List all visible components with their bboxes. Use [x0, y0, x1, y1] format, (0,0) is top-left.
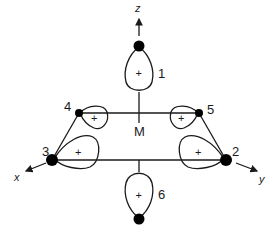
lobe-5-sign: + [178, 112, 184, 124]
diagram-canvas: z x y + 1 + 6 + 4 [0, 0, 280, 236]
ligand-6-label: 6 [158, 187, 165, 202]
x-axis: x [13, 163, 46, 183]
ligand-5: + 5 [170, 102, 214, 129]
atom-5 [195, 109, 203, 117]
lobe-1-sign: + [136, 67, 142, 79]
lobe-6-sign: + [136, 189, 142, 201]
metal-center-label: M [134, 124, 145, 139]
x-axis-label: x [13, 171, 20, 183]
ligand-4-label: 4 [64, 99, 71, 114]
atom-4 [75, 109, 83, 117]
atom-2 [220, 154, 232, 166]
ligand-1-label: 1 [158, 66, 165, 81]
ligand-6: + 6 [125, 173, 165, 224]
ligand-4: + 4 [64, 99, 108, 129]
y-axis-label: y [258, 173, 266, 185]
lobe-3-sign: + [75, 146, 81, 158]
atom-1 [134, 41, 145, 52]
ligand-3-label: 3 [42, 144, 49, 159]
ligand-1: + 1 [125, 41, 165, 91]
bond-5-2 [199, 113, 226, 160]
ligand-3: + 3 [42, 136, 99, 169]
octahedral-orbital-diagram: z x y + 1 + 6 + 4 [0, 0, 280, 236]
x-axis-arrow [26, 163, 46, 171]
lobe-4-sign: + [91, 112, 97, 124]
lobe-2 [179, 136, 224, 169]
atom-6 [134, 214, 145, 225]
y-axis-arrow [236, 163, 257, 171]
ligand-2: + 2 [179, 136, 239, 169]
lobe-2-sign: + [195, 146, 201, 158]
ligand-5-label: 5 [207, 102, 214, 117]
z-axis: z [134, 2, 141, 36]
ligand-2-label: 2 [232, 144, 239, 159]
y-axis: y [236, 163, 266, 185]
z-axis-label: z [134, 2, 141, 14]
